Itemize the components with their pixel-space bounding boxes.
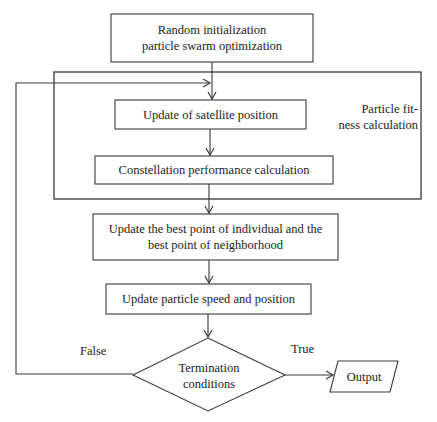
- output-label: Output: [334, 361, 394, 392]
- false-edge-label: False: [80, 343, 106, 359]
- constellation-label: Constellation performance calculation: [95, 156, 333, 184]
- best-point-label: Update the best point of individual and …: [93, 214, 338, 260]
- termination-label: Termination conditions: [150, 358, 268, 394]
- true-edge-label: True: [291, 341, 314, 357]
- speed-position-label: Update particle speed and position: [106, 284, 311, 314]
- init-label: Random initialization particle swarm opt…: [111, 14, 313, 62]
- fitness-group-label: Particle fit- ness calculation: [330, 101, 418, 133]
- satellite-label: Update of satellite position: [115, 100, 306, 129]
